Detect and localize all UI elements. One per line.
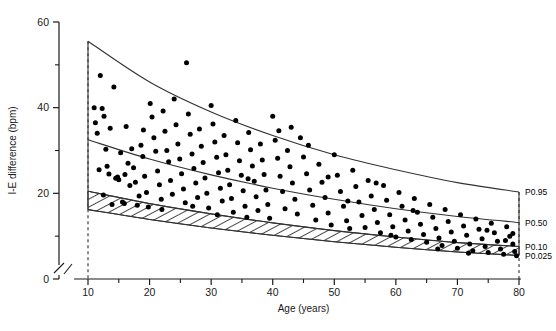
scatter-point bbox=[356, 199, 361, 204]
scatter-point bbox=[101, 193, 106, 198]
axis-and-curve-labels: 02040601020304050607080P0.95P0.50P0.10P0… bbox=[7, 16, 552, 314]
scatter-point bbox=[161, 109, 166, 114]
scatter-point bbox=[246, 176, 251, 181]
y-tick-label: 40 bbox=[37, 101, 49, 113]
scatter-point bbox=[260, 157, 265, 162]
scatter-point bbox=[409, 237, 414, 242]
scatter-point bbox=[150, 115, 155, 120]
scatter-point bbox=[470, 248, 475, 253]
scatter-point bbox=[166, 159, 171, 164]
scatter-point bbox=[329, 223, 334, 228]
percentile-label-P0.025: P0.025 bbox=[525, 251, 552, 261]
scatter-point bbox=[403, 217, 408, 222]
scatter-point bbox=[449, 229, 454, 234]
scatter-point bbox=[108, 126, 113, 131]
x-axis-break-mark bbox=[64, 264, 72, 274]
scatter-point bbox=[179, 171, 184, 176]
x-tick-label: 80 bbox=[513, 286, 525, 298]
scatter-point bbox=[489, 221, 494, 226]
percentile-label-P0.95: P0.95 bbox=[525, 187, 547, 197]
scatter-point bbox=[283, 206, 288, 211]
scatter-point bbox=[298, 135, 303, 140]
x-tick-label: 70 bbox=[452, 286, 464, 298]
scatter-point bbox=[424, 240, 429, 245]
scatter-point bbox=[127, 183, 132, 188]
scatter-point bbox=[204, 191, 209, 196]
scatter-point bbox=[220, 199, 225, 204]
y-axis-title: I-E difference (bpm) bbox=[7, 106, 18, 194]
scatter-point bbox=[440, 243, 445, 248]
scatter-point bbox=[393, 235, 398, 240]
scatter-point bbox=[218, 186, 223, 191]
scatter-point bbox=[366, 178, 371, 183]
scatter-point bbox=[235, 140, 240, 145]
scatter-point bbox=[97, 167, 102, 172]
scatter-point bbox=[267, 216, 272, 221]
scatter-point bbox=[310, 203, 315, 208]
scatter-point bbox=[374, 181, 379, 186]
scatter-point bbox=[140, 154, 145, 159]
percentile-curves bbox=[88, 41, 519, 255]
x-tick-label: 10 bbox=[82, 286, 94, 298]
scatter-point bbox=[210, 121, 215, 126]
scatter-point bbox=[363, 225, 368, 230]
scatter-point bbox=[510, 231, 515, 236]
scatter-point bbox=[98, 73, 103, 78]
scatter-point bbox=[461, 223, 466, 228]
scatter-point bbox=[503, 238, 508, 243]
scatter-point bbox=[275, 156, 280, 161]
scatter-point bbox=[212, 139, 217, 144]
scatter-point bbox=[124, 124, 129, 129]
scatter-point bbox=[122, 201, 127, 206]
scatter-point bbox=[388, 233, 393, 238]
scatter-point bbox=[105, 164, 110, 169]
scatter-point bbox=[335, 173, 340, 178]
scatter-point bbox=[118, 150, 123, 155]
scatter-point bbox=[129, 146, 134, 151]
scatter-point bbox=[396, 190, 401, 195]
scatter-point bbox=[307, 187, 312, 192]
scatter-point bbox=[292, 197, 297, 202]
scatter-point bbox=[142, 174, 147, 179]
scatter-point bbox=[390, 224, 395, 229]
scatter-point bbox=[175, 142, 180, 147]
scatter-point bbox=[359, 213, 364, 218]
hatched-band-shape bbox=[88, 191, 519, 255]
scatter-point bbox=[480, 236, 485, 241]
scatter-point bbox=[181, 187, 186, 192]
scatter-point bbox=[301, 154, 306, 159]
scatter-point bbox=[110, 202, 115, 207]
x-axis-title: Age (years) bbox=[278, 303, 330, 314]
scatter-point bbox=[304, 171, 309, 176]
scatter-point bbox=[193, 181, 198, 186]
scatter-point bbox=[287, 164, 292, 169]
scatter-point bbox=[483, 244, 488, 249]
scatter-point bbox=[464, 233, 469, 238]
figure-caption bbox=[0, 322, 556, 331]
scatter-point bbox=[273, 138, 278, 143]
scatter-point bbox=[270, 114, 275, 119]
scatter-point bbox=[278, 174, 283, 179]
scatter-point bbox=[289, 125, 294, 130]
scatter-point bbox=[387, 212, 392, 217]
scatter-point bbox=[162, 129, 167, 134]
scatter-point bbox=[191, 166, 196, 171]
scatter-point bbox=[157, 182, 162, 187]
scatter-point bbox=[239, 173, 244, 178]
scatter-point bbox=[144, 190, 149, 195]
scatter-point bbox=[170, 192, 175, 197]
scatter-point bbox=[341, 204, 346, 209]
scatter-point bbox=[225, 168, 230, 173]
scatter-point bbox=[190, 151, 195, 156]
scatter-point bbox=[197, 127, 202, 132]
scatter-point bbox=[252, 179, 257, 184]
scatter-point bbox=[452, 239, 457, 244]
scatter-point bbox=[276, 128, 281, 133]
scatter-point bbox=[246, 130, 251, 135]
scatter-point bbox=[122, 172, 127, 177]
scatter-point bbox=[106, 172, 111, 177]
scatter-point bbox=[227, 182, 232, 187]
scatter-point bbox=[433, 226, 438, 231]
scatter-point bbox=[415, 210, 420, 215]
scatter-point bbox=[155, 169, 160, 174]
